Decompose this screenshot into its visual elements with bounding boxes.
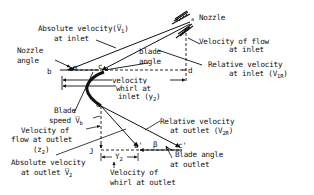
nozzle-angle-label: Nozzle: [17, 46, 43, 55]
blade-angle-outlet-label-2: at outlet: [170, 160, 209, 169]
relative-velocity-inlet-label-2: at inlet (V1R): [229, 69, 288, 81]
point-c: c: [98, 62, 102, 71]
velocity-of-flow-outlet-label: Velocity of: [21, 126, 69, 135]
point-e: e: [96, 100, 100, 109]
rel-vel-outlet-text: at outlet (V: [170, 126, 222, 135]
relative-velocity-outlet-label: Relative velocity: [160, 117, 234, 126]
blade-speed-label: Blade: [54, 106, 76, 115]
velocity-triangle-diagram: Nozzle Absolute velocity(V̅1) at inlet N…: [0, 0, 314, 195]
rel-vel-outlet-close: ): [229, 126, 233, 135]
whirl-inlet-text: inlet (y: [118, 92, 153, 101]
point-c-prime: c': [178, 141, 187, 150]
abs-vel-outlet-sub: 2: [69, 172, 72, 178]
abs-vel-inlet-close: ): [124, 24, 128, 33]
absolute-velocity-outlet-label-2: at outlet V̅2: [21, 168, 72, 180]
absolute-velocity-outlet-label: Absolute velocity: [11, 158, 85, 167]
point-J: J: [89, 147, 93, 156]
whirl-outlet-label-2: whirl at outlet: [110, 178, 176, 187]
blade-angle-label-2: angle: [130, 57, 170, 66]
velocity-of-flow-outlet-label-2: flow at outlet: [11, 135, 72, 144]
blade-speed-leader: [74, 72, 93, 113]
abs-vel-outlet-text: at outlet V̅: [21, 168, 69, 177]
rel-vel-inlet-close: ): [283, 69, 287, 78]
blade-speed-sub: b: [80, 120, 83, 126]
nozzle-label: Nozzle: [199, 13, 225, 22]
blade-angle-outlet-label: Blade angle: [175, 150, 223, 159]
angle-beta: β: [153, 140, 157, 149]
velocity-of-flow-outlet-label-3: (z2): [33, 145, 49, 157]
relative-velocity-outlet-label-2: at outlet (V2R): [170, 126, 233, 138]
whirl-inlet-label-3: inlet (y2): [118, 92, 160, 104]
absolute-velocity-outlet-vector: [101, 106, 138, 147]
abs-vel-inlet-text: Absolute velocity(V̅: [38, 24, 121, 33]
point-a-alpha: α: [73, 63, 77, 72]
point-b-prime: b': [134, 141, 143, 150]
absolute-velocity-inlet-label-2: at inlet: [54, 34, 89, 43]
vel-flow-outlet-close: ): [45, 145, 49, 154]
blade-angle-label: blade: [130, 47, 170, 56]
y2-sub: 2: [119, 156, 122, 162]
relative-velocity-inlet-label: Relative velocity: [208, 60, 282, 69]
point-d: d: [188, 66, 192, 75]
point-b: b: [47, 67, 51, 76]
vel-flow-outlet-text: (z: [33, 145, 42, 154]
rel-vel-inlet-text: at inlet (V: [229, 69, 277, 78]
whirl-inlet-close: ): [156, 92, 160, 101]
point-a: a: [191, 15, 194, 24]
nozzle-angle-label-2: angle: [17, 56, 39, 65]
whirl-outlet-label: Velocity of: [110, 168, 158, 177]
velocity-of-flow-inlet-label-2: at inlet: [229, 45, 264, 54]
y2-dimension-label: Y2: [115, 152, 123, 164]
blade-speed-text: speed V̅: [49, 116, 80, 125]
